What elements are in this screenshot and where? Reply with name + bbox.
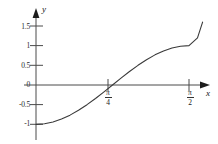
y-axis-arrow-icon	[33, 8, 40, 18]
data-curve	[36, 22, 203, 124]
chart-canvas	[0, 0, 218, 144]
chart-figure: 1.5 1 0.5 0 -0.5 -1 π 4 π 2 y x	[0, 0, 218, 144]
x-axis-arrow-icon	[200, 82, 210, 89]
